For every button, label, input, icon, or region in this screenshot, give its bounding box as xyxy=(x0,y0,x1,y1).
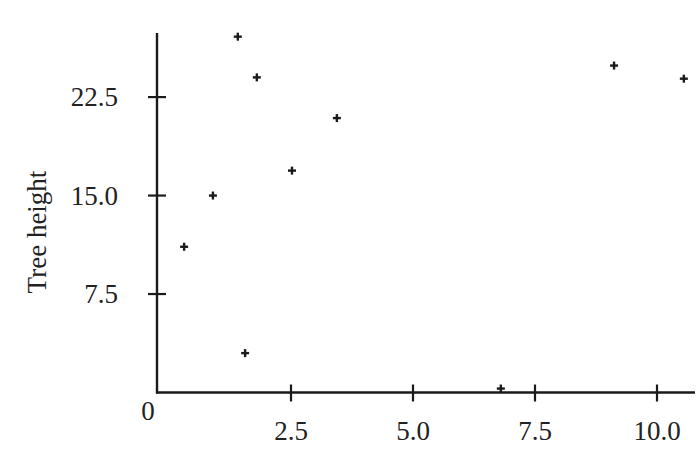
origin-label: 0 xyxy=(141,396,155,426)
x-tick-label: 5.0 xyxy=(396,416,430,446)
plus-marker-icon xyxy=(209,192,217,200)
plus-marker-icon xyxy=(288,167,296,175)
y-axis-label: Tree height xyxy=(22,170,52,293)
y-tick-label: 7.5 xyxy=(84,279,118,309)
x-tick-label: 2.5 xyxy=(274,416,308,446)
axes xyxy=(156,33,695,394)
data-points xyxy=(180,33,688,393)
plus-marker-icon xyxy=(241,349,249,357)
y-tick-label: 22.5 xyxy=(71,82,118,112)
scatter-chart: 2.55.07.510.07.515.022.5 Tree height 0 xyxy=(0,0,698,460)
y-tick-label: 15.0 xyxy=(71,181,118,211)
plus-marker-icon xyxy=(234,33,242,41)
x-tick-label: 10.0 xyxy=(633,416,680,446)
plot-area: 2.55.07.510.07.515.022.5 Tree height 0 xyxy=(0,0,698,460)
plus-marker-icon xyxy=(333,114,341,122)
plus-marker-icon xyxy=(253,73,261,81)
plus-marker-icon xyxy=(610,62,618,70)
plus-marker-icon xyxy=(680,75,688,83)
x-tick-label: 7.5 xyxy=(518,416,552,446)
plus-marker-icon xyxy=(180,243,188,251)
